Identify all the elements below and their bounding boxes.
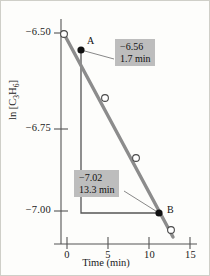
callout-b-value: −7.02: [79, 172, 102, 183]
point-b-marker: [155, 209, 162, 216]
chart-figure: −6.50 −6.75 −7.00 ln [C3H6] 0 5 10 15 Ti…: [0, 0, 210, 276]
y-axis-title-prefix: ln [C: [7, 99, 18, 120]
y-axis-title-suffix: ]: [7, 80, 18, 84]
y-axis-title-sub1: 3: [12, 95, 21, 99]
callout-point-b: −7.02 13.3 min: [74, 170, 119, 197]
y-tick-label-650: −6.50: [7, 26, 51, 37]
data-point-t0: [61, 31, 68, 38]
data-point-t5: [102, 95, 109, 102]
point-a-label: A: [87, 35, 94, 46]
y-axis-title-mid: H: [7, 87, 18, 95]
y-axis-title-sub2: 6: [12, 84, 21, 88]
leader-line-a: [81, 50, 114, 59]
y-axis-title: ln [C3H6]: [7, 61, 21, 139]
callout-point-a: −6.56 1.7 min: [115, 39, 155, 66]
callout-a-value: −6.56: [120, 41, 143, 52]
data-point-t10: [133, 155, 140, 162]
chart-plot-area: [1, 1, 210, 276]
y-tick-label-700: −7.00: [7, 204, 51, 215]
point-a-marker: [77, 46, 84, 53]
callout-b-time: 13.3 min: [79, 184, 115, 196]
data-point-t15: [168, 227, 175, 234]
callout-a-time: 1.7 min: [120, 53, 151, 65]
x-axis-title: Time (min): [1, 257, 210, 268]
point-b-label: B: [167, 204, 174, 215]
